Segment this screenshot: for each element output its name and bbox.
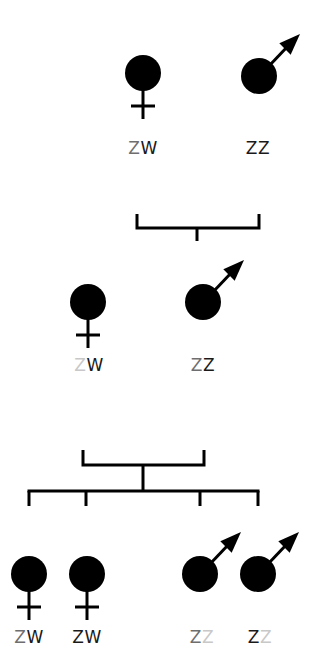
male-symbol-icon [240, 532, 299, 592]
allele-letter: W [26, 629, 43, 646]
allele-letter: Z [203, 357, 215, 374]
female-symbol-icon [69, 556, 105, 620]
allele-letter: Z [191, 357, 203, 374]
allele-letter: Z [246, 140, 258, 157]
female-symbol-icon [125, 55, 161, 119]
allele-letter: Z [190, 629, 202, 646]
female-symbol-icon [70, 284, 106, 348]
genotype-label: ZW [74, 357, 103, 374]
allele-letter: Z [260, 629, 272, 646]
pedigree-diagram: ZWZZZWZZZWZWZZZZ [0, 0, 317, 660]
genotype-label: ZZ [190, 629, 214, 646]
allele-letter: Z [258, 140, 270, 157]
male-symbol-icon [182, 532, 241, 592]
cross-bracket-p [137, 214, 259, 241]
pedigree-lines-canvas [0, 0, 317, 660]
allele-letter: Z [128, 140, 140, 157]
allele-letter: Z [248, 629, 260, 646]
allele-letter: Z [74, 357, 86, 374]
genotype-label: ZZ [246, 140, 270, 157]
genotype-label: ZZ [248, 629, 272, 646]
genotype-label: ZW [14, 629, 43, 646]
genotype-label: ZW [72, 629, 101, 646]
male-symbol-icon [241, 34, 300, 94]
allele-letter: Z [202, 629, 214, 646]
genotype-label: ZZ [191, 357, 215, 374]
allele-letter: W [86, 357, 103, 374]
offspring-line [28, 491, 260, 506]
allele-letter: Z [14, 629, 26, 646]
genotype-label: ZW [128, 140, 157, 157]
cross-bracket-f1 [83, 450, 204, 491]
allele-letter: Z [72, 629, 84, 646]
female-symbol-icon [11, 556, 47, 620]
allele-letter: W [140, 140, 157, 157]
allele-letter: W [84, 629, 101, 646]
male-symbol-icon [185, 260, 244, 320]
